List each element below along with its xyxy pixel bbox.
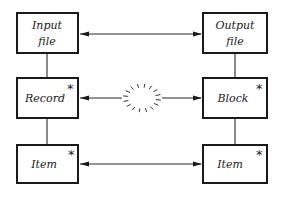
- box-record: Record *: [17, 78, 78, 118]
- dash-tick: [124, 101, 129, 102]
- dash-tick: [127, 104, 131, 106]
- dash-tick: [131, 87, 134, 90]
- box-item-right: Item *: [203, 145, 267, 183]
- dash-tick: [156, 95, 161, 96]
- arrowhead-right-icon: [193, 162, 202, 167]
- box-block: Block *: [203, 78, 267, 118]
- box-label-line: Output: [215, 19, 255, 32]
- arrowhead-left-icon: [80, 96, 89, 101]
- dash-tick: [153, 90, 157, 92]
- box-label-line: Input: [31, 19, 63, 32]
- dash-tick: [137, 84, 138, 88]
- dash-tick: [132, 107, 135, 110]
- star-icon: *: [256, 81, 263, 96]
- arrow-record-block: [80, 84, 202, 112]
- box-label: Record: [24, 92, 65, 105]
- dash-tick: [150, 107, 153, 110]
- dash-tick: [139, 108, 140, 112]
- arrowhead-right-icon: [193, 96, 202, 101]
- box-input-file: Input file: [17, 13, 78, 53]
- dash-tick: [156, 100, 161, 101]
- box-label-line: file: [225, 35, 244, 48]
- dash-tick: [154, 103, 158, 105]
- arrow-input-output: [80, 32, 202, 37]
- box-output-file: Output file: [203, 13, 267, 53]
- arrowhead-right-icon: [193, 32, 202, 37]
- dash-tick: [149, 86, 152, 89]
- dash-tick: [145, 108, 146, 112]
- star-icon: *: [67, 81, 74, 96]
- arrow-item-item: [80, 162, 202, 167]
- box-label-line: file: [37, 35, 56, 48]
- dash-tick: [123, 96, 128, 97]
- star-icon: *: [68, 147, 75, 162]
- box-label: Item: [30, 158, 57, 171]
- dash-tick: [126, 91, 130, 93]
- dash-tick: [144, 84, 145, 88]
- star-icon: *: [256, 147, 263, 162]
- box-item-left: Item *: [17, 145, 78, 183]
- arrowhead-left-icon: [80, 162, 89, 167]
- file-structure-diagram: Input file Output file Record * Block * …: [0, 0, 284, 198]
- arrowhead-left-icon: [80, 32, 89, 37]
- dashed-circle-icon: [123, 84, 161, 112]
- box-label: Item: [216, 158, 243, 171]
- box-label: Block: [216, 92, 248, 105]
